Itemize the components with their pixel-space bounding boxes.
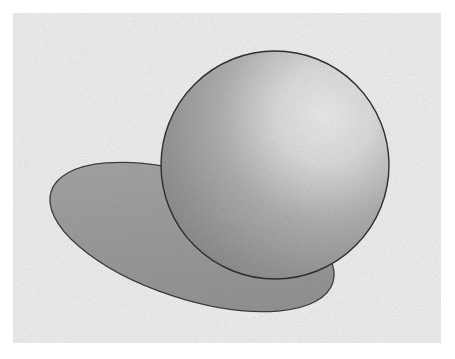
sphere <box>161 51 389 279</box>
drawing-frame <box>0 0 455 359</box>
sphere-drawing <box>0 0 455 359</box>
